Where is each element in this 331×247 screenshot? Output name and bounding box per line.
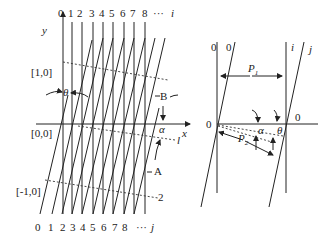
alpha-label-left: α [159, 123, 165, 135]
top-label-j: j [307, 43, 312, 55]
y-axis-label: y [41, 24, 47, 36]
svg-text:i: i [171, 7, 174, 19]
svg-text:7: 7 [112, 221, 118, 233]
theta-label: θ [63, 86, 69, 98]
dashed-line-alpha [218, 125, 283, 136]
arrow-theta-down [274, 110, 277, 121]
top-label-0b: 0 [226, 41, 232, 53]
svg-text:6: 6 [120, 7, 126, 19]
svg-text:1: 1 [68, 7, 74, 19]
label-A: A [154, 165, 162, 177]
svg-text:2: 2 [77, 7, 83, 19]
top-label-0a: 0 [211, 41, 217, 53]
row-label-1-0: [1,0] [31, 66, 52, 78]
bottom-index-labels: 0 1 2 3 4 5 6 7 8 ··· j [35, 221, 154, 233]
svg-text:5: 5 [90, 221, 96, 233]
svg-text:5: 5 [109, 7, 115, 19]
left-diagram: x y 0 1 2 3 4 5 6 7 8 ··· i 0 1 2 3 4 5 [16, 7, 190, 233]
arrow-alpha-down [252, 110, 258, 122]
x-axis-label: x [181, 127, 187, 139]
alpha-label-right: α [258, 124, 264, 136]
svg-text:6: 6 [101, 221, 107, 233]
svg-text:0: 0 [58, 7, 64, 19]
moire-diagram: x y 0 1 2 3 4 5 6 7 8 ··· i 0 1 2 3 4 5 [0, 0, 331, 247]
arrow-alpha-up [155, 140, 160, 160]
label-l: l [177, 134, 180, 146]
svg-text:0: 0 [35, 221, 41, 233]
svg-text:j: j [149, 221, 154, 233]
origin-label-right: 0 [295, 111, 301, 123]
svg-text:1: 1 [48, 221, 54, 233]
right-diagram: 0 0 i j 0 0 P1 P2 α θ [201, 41, 318, 207]
row-label-0-0: [0,0] [31, 127, 52, 139]
svg-text:7: 7 [130, 7, 136, 19]
svg-text:4: 4 [80, 221, 86, 233]
svg-text:8: 8 [142, 7, 148, 19]
row-label-minus1-0: [-1,0] [16, 185, 41, 197]
svg-text:···: ··· [153, 7, 164, 19]
label-B: B [160, 90, 167, 102]
moire-line-1-0 [63, 62, 168, 80]
top-label-i: i [291, 41, 294, 53]
vertical-grating-lines [63, 22, 145, 214]
top-index-labels: 0 1 2 3 4 5 6 7 8 ··· i [58, 7, 174, 19]
theta-arrow-left [46, 91, 62, 95]
origin-label-left: 0 [206, 118, 212, 130]
svg-text:4: 4 [99, 7, 105, 19]
svg-text:3: 3 [89, 7, 95, 19]
label-2: 2 [158, 191, 164, 203]
svg-text:8: 8 [122, 221, 128, 233]
p2-label: P2 [237, 132, 249, 147]
p1-label: P1 [247, 62, 258, 77]
svg-text:3: 3 [70, 221, 76, 233]
theta-label-right: θ [277, 124, 283, 136]
svg-text:···: ··· [136, 221, 147, 233]
svg-text:2: 2 [60, 221, 66, 233]
